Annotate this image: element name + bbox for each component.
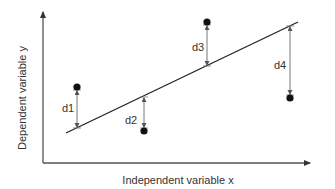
data-point	[286, 94, 293, 101]
residual-label: d2	[125, 114, 137, 126]
y-axis-label: Dependent variable y	[16, 46, 28, 150]
residual-label: d1	[62, 102, 74, 114]
data-point	[140, 127, 147, 134]
residual-label: d4	[274, 59, 286, 71]
data-point	[73, 83, 80, 90]
residual-d3: d3	[192, 18, 211, 66]
residual-label: d3	[192, 41, 204, 53]
residuals-group: d1d2d3d4	[62, 18, 294, 134]
regression-line	[66, 22, 298, 133]
x-axis-label: Independent variable x	[122, 174, 234, 186]
data-point	[203, 18, 210, 25]
regression-residuals-diagram: d1d2d3d4 Independent variable x Dependen…	[0, 0, 335, 189]
residual-d1: d1	[62, 83, 81, 128]
residual-d4: d4	[274, 26, 294, 102]
